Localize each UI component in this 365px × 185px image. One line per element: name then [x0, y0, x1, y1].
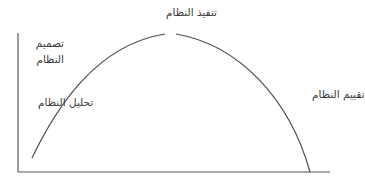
stage-design-label-line1: تصميم [36, 36, 64, 52]
stage-evaluation-label: تقييم النظام [312, 87, 365, 103]
curve-falling [176, 34, 310, 172]
stage-design-label-line2: النظام [36, 52, 64, 68]
stage-implementation-label: تنفيذ النظام [166, 5, 217, 21]
stage-design-label: تصميم النظام [36, 36, 64, 68]
stage-analysis-label: تحليل النظام [38, 95, 93, 111]
